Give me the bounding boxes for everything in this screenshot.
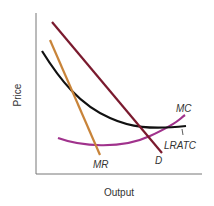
- chart: MC LRATC D MR Output Price: [0, 0, 214, 206]
- mc-label: MC: [176, 103, 192, 114]
- lratc-label: LRATC: [164, 140, 197, 151]
- y-axis-label: Price: [12, 83, 23, 106]
- lratc-pointer: [182, 129, 183, 135]
- d-label: D: [155, 155, 162, 166]
- mr-curve: [50, 40, 100, 155]
- x-axis-label: Output: [104, 187, 134, 198]
- mr-label: MR: [93, 159, 109, 170]
- lratc-curve: [42, 51, 186, 128]
